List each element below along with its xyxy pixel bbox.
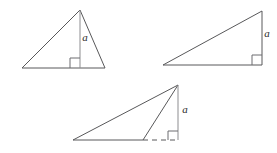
figure-canvas: a a a (0, 0, 277, 153)
obtuse-triangle: a (73, 85, 188, 140)
acute-triangle-right-angle-icon (70, 58, 80, 68)
acute-triangle-altitude-label: a (82, 31, 88, 43)
geometry-figure: a a a (0, 0, 277, 153)
right-triangle-altitude-label: a (264, 27, 270, 39)
right-triangle: a (163, 11, 270, 65)
right-triangle-right-angle-icon (252, 55, 262, 65)
obtuse-triangle-altitude-label: a (182, 103, 188, 115)
acute-triangle-outline (22, 10, 105, 68)
acute-triangle: a (22, 10, 105, 68)
right-triangle-outline (163, 11, 262, 65)
obtuse-triangle-outline (73, 85, 178, 140)
obtuse-triangle-right-angle-icon (168, 131, 178, 140)
